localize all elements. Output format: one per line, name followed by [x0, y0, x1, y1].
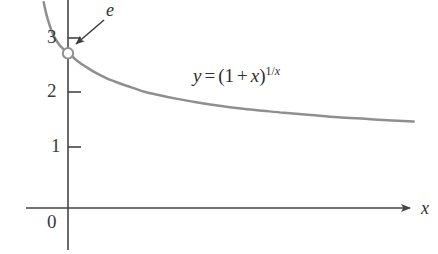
plot-canvas: [0, 0, 438, 254]
y-tick-label-1: 1: [51, 136, 61, 155]
equation-label: y=(1+x)1/x: [193, 66, 280, 85]
y-tick-label-2: 2: [47, 81, 57, 100]
equation-x-base: x: [251, 65, 259, 86]
equation-plus: +: [234, 65, 251, 86]
open-circle-marker: [63, 48, 73, 58]
equation-exponent: 1/x: [265, 64, 280, 78]
origin-label: 0: [47, 212, 57, 231]
figure-container: 3 2 1 0 e x y=(1+x)1/x: [0, 0, 438, 254]
limit-label-e: e: [106, 1, 114, 19]
equation-one: 1: [224, 65, 234, 86]
equation-exponent-denominator: x: [275, 64, 280, 78]
y-tick-label-3: 3: [47, 27, 57, 46]
x-axis-label: x: [421, 199, 429, 217]
equation-equals: =: [201, 65, 218, 86]
e-annotation-arrow: [76, 20, 104, 44]
curve-1-plus-x-to-1-over-x: [44, 2, 414, 121]
